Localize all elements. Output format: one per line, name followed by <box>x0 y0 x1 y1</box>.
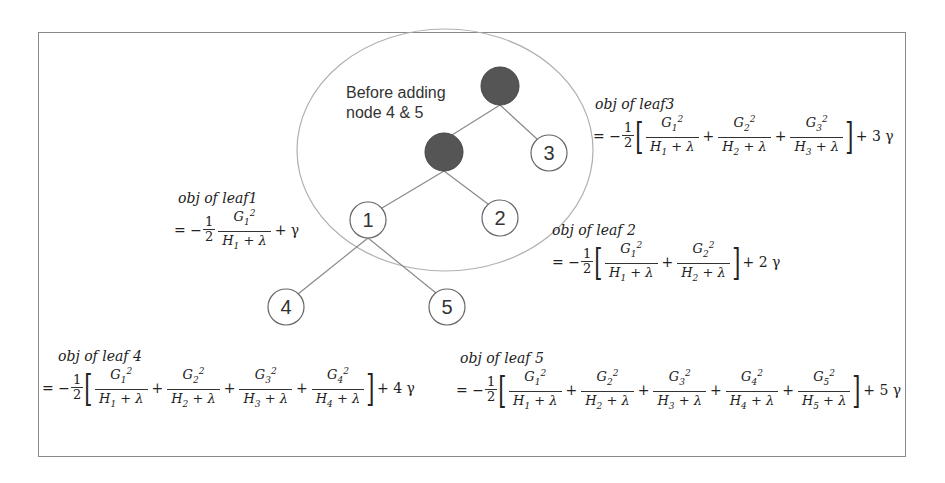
formula-title: obj of leaf 5 <box>460 350 903 366</box>
leaf-node-5: 5 <box>429 289 465 325</box>
gamma-term: + 4 γ <box>377 380 415 396</box>
eq-prefix: = − <box>552 254 580 270</box>
gamma-term: + 2 γ <box>743 254 781 270</box>
term-4: G42H4 + λ <box>726 366 778 414</box>
formula-equation: = − 12 [ G12H1 + λ+ G22H2 + λ+ G32H3 + λ… <box>42 364 417 412</box>
leaf-node-1: 1 <box>350 202 386 238</box>
formula-title: obj of leaf 4 <box>58 348 417 364</box>
gamma-term: + 5 γ <box>863 382 901 398</box>
term-2: G22H2 + λ <box>718 112 770 160</box>
eq-prefix: = − <box>174 222 202 238</box>
term-1: G12H1 + λ <box>605 238 657 286</box>
term-3: G32H3 + λ <box>653 366 705 414</box>
gamma-term: + γ <box>275 222 300 238</box>
term-2: G22H2 + λ <box>167 364 219 412</box>
caption-line-2: node 4 & 5 <box>346 103 446 123</box>
before-adding-caption: Before adding node 4 & 5 <box>346 83 446 123</box>
formula-title: obj of leaf1 <box>178 190 301 206</box>
term-1: G12H1 + λ <box>218 206 270 254</box>
svg-text:1: 1 <box>362 209 373 231</box>
caption-line-1: Before adding <box>346 83 446 103</box>
half-fraction: 12 <box>485 375 497 404</box>
formula-leaf-5: obj of leaf 5 = − 12 [ G12H1 + λ+ G22H2 … <box>456 350 903 414</box>
root-node <box>481 67 519 105</box>
leaf-node-3: 3 <box>531 135 567 171</box>
term-3: G32H3 + λ <box>239 364 291 412</box>
half-fraction: 12 <box>71 373 83 402</box>
term-1: G12H1 + λ <box>95 364 147 412</box>
term-1: G12H1 + λ <box>509 366 561 414</box>
formula-title: obj of leaf 2 <box>552 222 782 238</box>
formula-leaf-4: obj of leaf 4 = − 12 [ G12H1 + λ+ G22H2 … <box>42 348 417 412</box>
formula-equation: = − 12 [ G12H1 + λ+ G22H2 + λ+ G32H3 + λ… <box>593 112 896 160</box>
term-5: G52H5 + λ <box>798 366 850 414</box>
eq-prefix: = − <box>593 128 621 144</box>
term-2: G22H2 + λ <box>581 366 633 414</box>
internal-node <box>425 133 463 171</box>
term-4: G42H4 + λ <box>312 364 364 412</box>
formula-title: obj of leaf3 <box>595 96 896 112</box>
leaf-node-4: 4 <box>268 289 304 325</box>
half-fraction: 12 <box>203 215 215 244</box>
leaf-node-2: 2 <box>482 200 518 236</box>
formula-equation: = − 12 [ G12H1 + λ+ G22H2 + λ ] + 2 γ <box>552 238 782 286</box>
half-fraction: 12 <box>622 121 634 150</box>
term-2: G22H2 + λ <box>677 238 729 286</box>
term-1: G12H1 + λ <box>646 112 698 160</box>
svg-text:2: 2 <box>494 207 505 229</box>
term-3: G32H3 + λ <box>790 112 842 160</box>
formula-equation: = − 12 [ G12H1 + λ+ G22H2 + λ+ G32H3 + λ… <box>456 366 903 414</box>
eq-prefix: = − <box>456 382 484 398</box>
formula-equation: = − 12 G12H1 + λ + γ <box>174 206 301 254</box>
half-fraction: 12 <box>581 247 593 276</box>
formula-leaf-1: obj of leaf1 = − 12 G12H1 + λ + γ <box>174 190 301 254</box>
gamma-term: + 3 γ <box>856 128 894 144</box>
svg-text:4: 4 <box>280 296 291 318</box>
eq-prefix: = − <box>42 380 70 396</box>
formula-leaf-3: obj of leaf3 = − 12 [ G12H1 + λ+ G22H2 +… <box>593 96 896 160</box>
formula-leaf-2: obj of leaf 2 = − 12 [ G12H1 + λ+ G22H2 … <box>548 222 782 286</box>
svg-text:3: 3 <box>543 142 554 164</box>
svg-text:5: 5 <box>441 296 452 318</box>
